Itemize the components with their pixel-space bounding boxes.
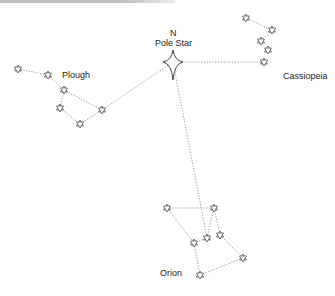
cassiopeia-star-icon <box>265 46 272 54</box>
orion-link <box>167 208 194 243</box>
cassiopeia-star-icon <box>261 58 268 66</box>
plough-star-icon <box>77 120 84 128</box>
label-plough: Plough <box>62 70 90 80</box>
cassiopeia-star-icon <box>243 14 250 22</box>
plough-star-icon <box>57 104 64 112</box>
star-chart: N Pole Star Plough Cassiopeia Orion <box>0 0 335 296</box>
plough-star-icon <box>15 65 22 73</box>
label-orion: Orion <box>160 268 182 278</box>
orion-link <box>207 208 214 238</box>
orion-pointer-line <box>173 62 207 238</box>
label-pole-star: Pole Star <box>155 38 192 48</box>
label-cassiopeia: Cassiopeia <box>283 71 328 81</box>
plough-link <box>64 90 102 110</box>
orion-link <box>214 208 220 235</box>
label-north: N <box>170 28 177 38</box>
orion-link <box>200 258 243 275</box>
plough-pointer-line <box>102 62 173 110</box>
orion-star-icon <box>204 234 211 242</box>
orion-star-icon <box>211 204 218 212</box>
plough-star-icon <box>61 86 68 94</box>
plough-link <box>18 69 48 75</box>
plough-star-icon <box>99 106 106 114</box>
orion-link <box>220 235 243 258</box>
orion-star-icon <box>197 271 204 279</box>
orion-link <box>194 243 200 275</box>
cassiopeia-link <box>246 18 272 30</box>
pole-star-icon <box>163 50 183 80</box>
orion-star-icon <box>191 239 198 247</box>
